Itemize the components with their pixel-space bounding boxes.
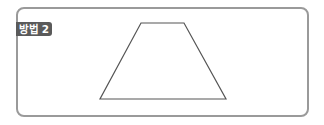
trapezoid-shape (100, 23, 226, 99)
trapezoid-figure (0, 0, 324, 125)
